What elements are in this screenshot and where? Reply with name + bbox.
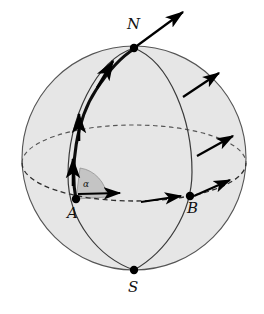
sphere-diagram-svg (0, 0, 264, 314)
label-point-b: B (187, 201, 198, 216)
label-angle-alpha: α (83, 180, 89, 189)
north-pole-dot (130, 44, 138, 52)
point-a-dot (72, 195, 80, 203)
sphere-outline (22, 46, 246, 270)
label-south-pole: S (128, 280, 138, 295)
label-point-a: A (67, 206, 78, 221)
figure-canvas: N S A B α (0, 0, 264, 314)
north-pole-tangent-arrow (134, 12, 183, 48)
south-pole-dot (130, 266, 138, 274)
equator-tangent-arrow-at-a (78, 193, 120, 194)
label-north-pole: N (127, 17, 140, 32)
